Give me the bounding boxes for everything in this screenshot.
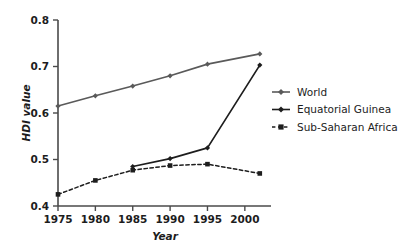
x-tick-label: 1985 xyxy=(118,213,147,225)
x-tick-label: 2000 xyxy=(230,213,259,225)
data-point-marker xyxy=(168,156,173,161)
x-tick-label: 1975 xyxy=(43,213,72,225)
x-tick-label: 1990 xyxy=(155,213,184,225)
data-point-marker xyxy=(130,168,135,173)
data-point-marker xyxy=(93,178,98,183)
y-tick-label: 0.7 xyxy=(30,60,49,72)
x-tick-label: 1995 xyxy=(193,213,222,225)
data-point-marker xyxy=(55,103,60,108)
chart-legend: WorldEquatorial GuineaSub-Saharan Africa xyxy=(272,86,398,133)
y-axis-tick-labels: 0.40.50.60.70.8 xyxy=(30,14,49,212)
data-point-marker xyxy=(205,62,210,67)
y-axis-title: HDI value xyxy=(20,84,32,141)
x-tick-label: 1980 xyxy=(81,213,110,225)
series-line xyxy=(58,164,260,194)
legend-marker xyxy=(278,124,283,129)
line-chart: 0.40.50.60.70.8 197519801985199019952000… xyxy=(0,0,404,251)
y-tick-label: 0.6 xyxy=(30,107,49,119)
series-lines xyxy=(58,54,260,194)
y-tick-label: 0.4 xyxy=(30,200,49,212)
y-tick-label: 0.5 xyxy=(30,153,49,165)
data-point-marker xyxy=(93,93,98,98)
chart-figure: 0.40.50.60.70.8 197519801985199019952000… xyxy=(0,0,404,251)
data-point-marker xyxy=(257,51,262,56)
legend-label: World xyxy=(297,86,327,98)
y-tick-label: 0.8 xyxy=(30,14,49,26)
data-point-marker xyxy=(168,163,173,168)
data-point-marker xyxy=(168,73,173,78)
legend-marker xyxy=(278,89,284,95)
legend-marker xyxy=(278,107,284,113)
data-point-marker xyxy=(205,162,210,167)
legend-label: Sub-Saharan Africa xyxy=(297,121,398,133)
x-axis-title: Year xyxy=(152,230,178,242)
legend-label: Equatorial Guinea xyxy=(297,103,391,115)
data-point-marker xyxy=(130,83,135,88)
x-axis-tick-labels: 197519801985199019952000 xyxy=(43,213,259,225)
series-line xyxy=(58,54,260,106)
series-markers xyxy=(55,51,262,196)
data-point-marker xyxy=(56,192,61,197)
data-point-marker xyxy=(257,171,262,176)
